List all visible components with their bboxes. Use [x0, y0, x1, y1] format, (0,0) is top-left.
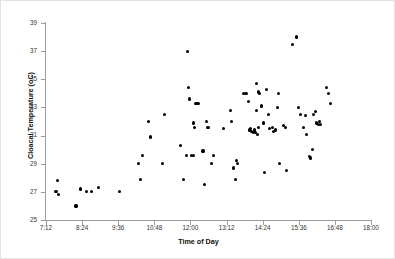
data-point	[149, 135, 152, 138]
data-point	[236, 162, 239, 165]
data-point	[179, 144, 182, 147]
data-point	[234, 178, 237, 181]
data-point	[56, 179, 59, 182]
data-point	[139, 178, 142, 181]
y-axis-tick-label: 35	[1, 76, 37, 82]
y-axis-tick-label: 39	[1, 20, 37, 26]
y-axis-tick-label: 33	[1, 104, 37, 110]
data-point	[185, 154, 188, 157]
data-point	[327, 92, 330, 95]
data-point	[210, 162, 213, 165]
x-axis-tick-label: 9:36	[98, 225, 138, 231]
y-axis-tick	[41, 79, 45, 80]
data-point	[97, 186, 100, 189]
data-point	[206, 126, 209, 129]
data-point	[311, 148, 314, 151]
data-point	[262, 121, 265, 124]
x-axis-tick-label: 14:24	[243, 225, 283, 231]
scatter-chart-figure: Time of Day Cloacal Temperature (oC) 252…	[0, 0, 395, 259]
data-point	[265, 88, 268, 91]
data-point	[187, 86, 190, 89]
data-point	[304, 114, 307, 117]
data-point	[192, 154, 195, 157]
data-point	[193, 126, 196, 129]
data-point	[314, 110, 317, 113]
data-point	[230, 120, 233, 123]
data-point	[118, 190, 121, 193]
data-point	[141, 154, 144, 157]
data-point	[305, 133, 308, 136]
y-axis-tick	[41, 192, 45, 193]
data-point	[203, 183, 206, 186]
data-point	[247, 100, 250, 103]
data-point	[277, 92, 280, 95]
data-point	[188, 97, 191, 100]
data-point	[79, 187, 82, 190]
data-point	[232, 166, 235, 169]
data-point	[90, 190, 93, 193]
y-axis-title: Cloacal Temperature (oC)	[26, 41, 35, 191]
data-point	[57, 193, 60, 196]
data-point	[267, 113, 270, 116]
data-point	[299, 113, 302, 116]
data-point	[263, 171, 266, 174]
data-point	[284, 126, 287, 129]
data-point	[274, 128, 277, 131]
y-axis-tick-label: 25	[1, 217, 37, 223]
data-point	[205, 120, 208, 123]
y-axis-tick-label: 29	[1, 161, 37, 167]
data-point	[297, 106, 300, 109]
data-point	[319, 123, 322, 126]
data-point	[186, 50, 189, 53]
x-axis-tick-label: 10:48	[134, 225, 174, 231]
data-point	[255, 82, 258, 85]
x-axis-tick-label: 8:24	[62, 225, 102, 231]
data-point	[256, 133, 259, 136]
data-point	[285, 169, 288, 172]
x-axis-title: Time of Day	[1, 237, 395, 246]
x-axis-tick-label: 13:12	[207, 225, 247, 231]
data-point	[257, 126, 260, 129]
data-point	[312, 113, 315, 116]
data-point	[278, 162, 281, 165]
y-axis-tick	[41, 136, 45, 137]
data-point	[197, 102, 200, 105]
x-axis-tick-label: 12:00	[170, 225, 210, 231]
data-point	[147, 120, 150, 123]
x-axis-tick-label: 16:48	[315, 225, 355, 231]
plot-area	[46, 23, 371, 220]
data-point	[182, 178, 185, 181]
y-axis-tick	[41, 220, 45, 221]
y-axis-tick	[41, 164, 45, 165]
y-axis-tick	[41, 51, 45, 52]
data-point	[325, 86, 328, 89]
data-point	[192, 121, 195, 124]
data-point	[302, 126, 305, 129]
x-axis-tick-label: 15:36	[279, 225, 319, 231]
data-point	[74, 204, 77, 207]
data-point	[137, 162, 140, 165]
data-point	[201, 149, 204, 152]
data-point	[295, 35, 298, 38]
data-point	[258, 92, 261, 95]
data-point	[85, 190, 88, 193]
data-point	[229, 109, 232, 112]
data-point	[245, 92, 248, 95]
data-point	[222, 127, 225, 130]
data-point	[161, 162, 164, 165]
y-axis-tick-label: 27	[1, 189, 37, 195]
data-point	[309, 156, 312, 159]
data-point	[276, 106, 279, 109]
x-axis-line	[45, 220, 372, 221]
data-point	[212, 154, 215, 157]
y-axis-tick	[41, 107, 45, 108]
data-point	[291, 43, 294, 46]
data-point	[329, 102, 332, 105]
x-axis-tick-label: 7:12	[26, 225, 66, 231]
y-axis-tick-label: 31	[1, 132, 37, 138]
y-axis-tick-label: 37	[1, 48, 37, 54]
y-axis-tick	[41, 23, 45, 24]
data-point	[255, 109, 258, 112]
data-point	[163, 113, 166, 116]
data-point	[260, 104, 263, 107]
